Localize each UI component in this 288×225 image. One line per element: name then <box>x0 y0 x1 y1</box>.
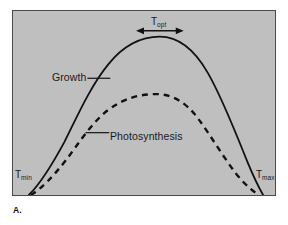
t-opt-arrow <box>136 27 184 34</box>
figure-panel-a: Growth Photosynthesis Tmin Tmax Topt A. <box>0 0 288 225</box>
t-min-label: Tmin <box>15 170 32 180</box>
plot-frame <box>12 10 276 196</box>
panel-caption: A. <box>13 205 22 215</box>
t-opt-label: Topt <box>151 17 166 27</box>
t-max-label: Tmax <box>256 170 275 180</box>
photosynthesis-label: Photosynthesis <box>110 131 183 142</box>
plot-svg <box>13 11 275 195</box>
t-max-subscript: max <box>262 174 275 181</box>
t-min-subscript: min <box>21 174 32 181</box>
growth-curve <box>29 37 263 195</box>
t-opt-subscript: opt <box>157 21 166 28</box>
growth-label: Growth <box>52 72 86 83</box>
